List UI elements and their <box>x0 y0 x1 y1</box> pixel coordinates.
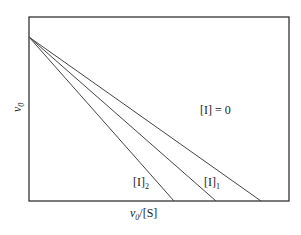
line-inhibitor-1 <box>29 37 216 201</box>
plot-frame <box>29 17 289 201</box>
x-axis-label: v0/[S] <box>130 206 157 222</box>
y-axis-label: v0 <box>10 103 26 112</box>
line-no-inhibitor <box>29 37 261 201</box>
series-label-inhibitor-1: [I]1 <box>204 175 220 191</box>
line-inhibitor-2 <box>29 37 174 201</box>
eadie-hofstee-plot: [I] = 0 [I]1 [I]2 v0/[S] v0 <box>0 0 301 235</box>
series-label-inhibitor-2: [I]2 <box>133 175 149 191</box>
series-label-no-inhibitor: [I] = 0 <box>200 103 231 117</box>
